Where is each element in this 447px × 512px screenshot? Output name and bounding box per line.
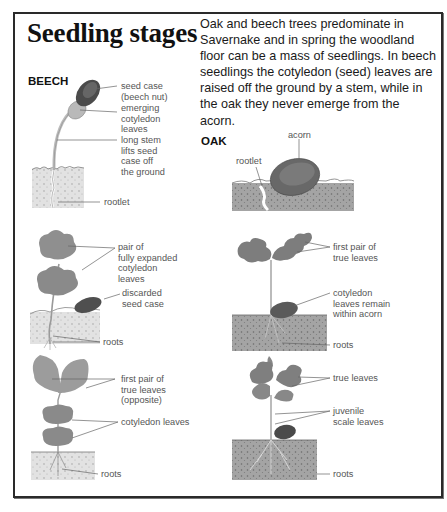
label-cotyledon-remain-in-acorn: cotyledon leaves remain within acorn bbox=[333, 288, 390, 320]
label-cotyledon-leaves: cotyledon leaves bbox=[121, 417, 189, 428]
label-long-stem: long stem lifts seed case off the ground bbox=[121, 135, 165, 177]
beech-stage-3-illustration bbox=[31, 355, 95, 480]
label-true-leaves: true leaves bbox=[333, 373, 378, 384]
label-seed-case: seed case (beech nut) bbox=[121, 81, 167, 102]
label-oak-first-true-leaves: first pair of true leaves bbox=[333, 242, 378, 263]
label-acorn: acorn bbox=[288, 130, 311, 141]
label-beech-roots-2: roots bbox=[103, 337, 123, 348]
beech-stage-1-illustration bbox=[32, 75, 105, 208]
label-discarded-seed-case: discarded seed case bbox=[122, 288, 164, 309]
beech-stage-2-illustration bbox=[30, 230, 103, 350]
label-juvenile-scale-leaves: juvenile scale leaves bbox=[333, 406, 384, 427]
leader-lines bbox=[52, 86, 330, 474]
label-expanded-cotyledon-leaves: pair of fully expanded cotyledon leaves bbox=[118, 242, 177, 284]
label-emerging-cotyledon-leaves: emerging cotyledon leaves bbox=[121, 103, 160, 135]
label-oak-roots-3: roots bbox=[333, 469, 353, 480]
label-beech-roots-3: roots bbox=[101, 469, 121, 480]
oak-stage-2-illustration bbox=[232, 233, 327, 351]
seedling-illustrations bbox=[0, 0, 447, 512]
label-first-true-leaves: first pair of true leaves (opposite) bbox=[121, 374, 166, 406]
label-oak-roots-2: roots bbox=[333, 340, 353, 351]
label-oak-rootlet: rootlet bbox=[236, 156, 262, 167]
oak-stage-3-illustration bbox=[232, 356, 317, 480]
label-beech-rootlet: rootlet bbox=[104, 197, 130, 208]
